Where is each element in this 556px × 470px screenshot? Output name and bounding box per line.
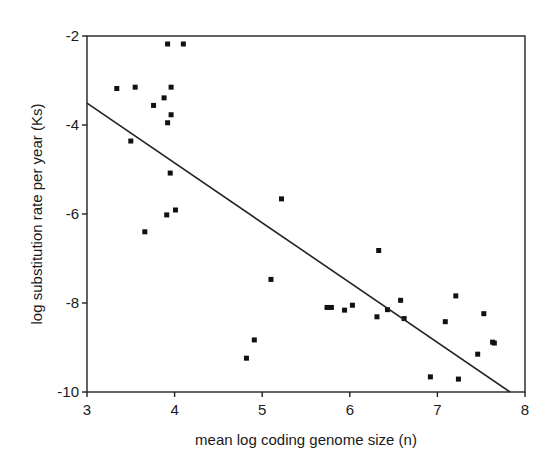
y-axis-label: log substitution rate per year (Ks) — [28, 104, 45, 325]
data-point — [268, 277, 273, 282]
x-tick-label: 6 — [346, 401, 354, 418]
x-tick-label: 5 — [258, 401, 266, 418]
data-point — [492, 341, 497, 346]
data-point — [475, 352, 480, 357]
data-point — [342, 308, 347, 313]
data-point — [252, 337, 257, 342]
y-tick-label: -6 — [66, 205, 79, 222]
data-point — [169, 112, 174, 117]
data-point — [443, 319, 448, 324]
data-point — [151, 103, 156, 108]
data-point — [128, 139, 133, 144]
y-tick-label: -8 — [66, 294, 79, 311]
data-point — [453, 293, 458, 298]
data-point — [428, 374, 433, 379]
y-axis-ticks: -2-4-6-8-10 — [57, 27, 87, 400]
regression-line — [87, 103, 510, 392]
data-point — [376, 248, 381, 253]
data-point — [142, 229, 147, 234]
y-tick-label: -4 — [66, 116, 79, 133]
data-point — [181, 42, 186, 47]
data-point — [456, 377, 461, 382]
y-tick-label: -10 — [57, 383, 79, 400]
data-point — [398, 298, 403, 303]
data-point — [168, 171, 173, 176]
x-tick-label: 4 — [170, 401, 178, 418]
x-tick-label: 7 — [433, 401, 441, 418]
data-point — [133, 85, 138, 90]
data-point — [350, 303, 355, 308]
data-point — [329, 305, 334, 310]
data-point — [165, 42, 170, 47]
data-point — [481, 311, 486, 316]
data-point — [173, 207, 178, 212]
x-tick-label: 3 — [83, 401, 91, 418]
data-points — [114, 42, 497, 382]
data-point — [325, 305, 330, 310]
x-tick-label: 8 — [521, 401, 529, 418]
x-axis-label: mean log coding genome size (n) — [195, 431, 417, 448]
x-axis-ticks: 345678 — [83, 392, 529, 418]
y-tick-label: -2 — [66, 27, 79, 44]
data-point — [114, 86, 119, 91]
data-point — [162, 95, 167, 100]
plot-frame — [87, 36, 525, 392]
data-point — [165, 120, 170, 125]
data-point — [374, 314, 379, 319]
data-point — [169, 85, 174, 90]
data-point — [244, 356, 249, 361]
data-point — [164, 212, 169, 217]
scatter-chart: 345678 -2-4-6-8-10 mean log coding genom… — [0, 0, 556, 470]
data-point — [279, 196, 284, 201]
